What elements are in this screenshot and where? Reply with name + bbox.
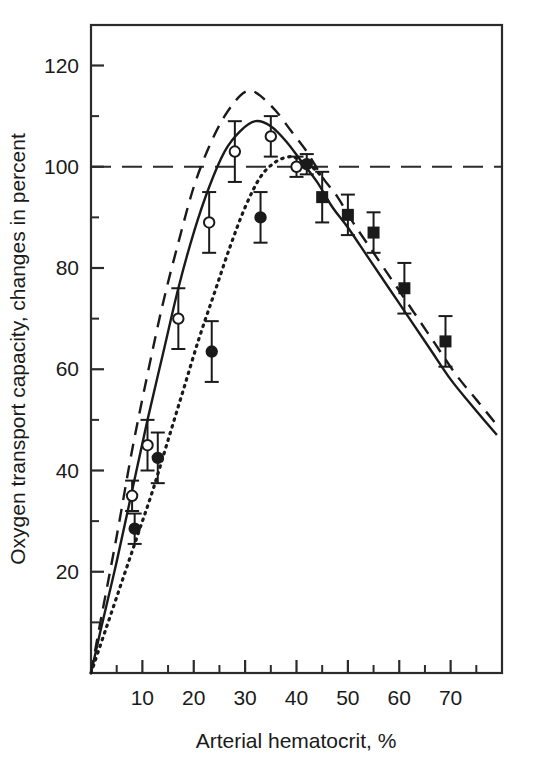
x-tick-label: 50 — [336, 686, 359, 709]
x-tick-label: 60 — [388, 686, 411, 709]
open-circle-marker — [173, 313, 183, 323]
filled-circle-marker — [153, 453, 163, 463]
filled-circle-marker — [302, 159, 312, 169]
filled-circle-marker — [255, 212, 265, 222]
open-circle-marker — [291, 162, 301, 172]
x-tick-label: 40 — [285, 686, 308, 709]
y-tick-label: 80 — [56, 256, 79, 279]
x-tick-label: 70 — [439, 686, 462, 709]
y-tick-label: 40 — [56, 459, 79, 482]
y-tick-label: 20 — [56, 560, 79, 583]
filled-square-marker — [317, 192, 327, 202]
y-axis-title: Oxygen transport capacity, changes in pe… — [6, 133, 29, 565]
open-circle-marker — [204, 217, 214, 227]
x-tick-label: 30 — [233, 686, 256, 709]
filled-circle-marker — [207, 346, 217, 356]
filled-square-marker — [399, 283, 409, 293]
chart-canvas: 20406080100120 10203040506070 Arterial h… — [0, 0, 533, 771]
y-tick-label: 120 — [44, 54, 79, 77]
open-circle-marker — [142, 440, 152, 450]
filled-square-marker — [368, 227, 378, 237]
filled-square-marker — [440, 336, 450, 346]
x-axis-title: Arterial hematocrit, % — [196, 729, 397, 752]
open-circle-marker — [266, 131, 276, 141]
y-tick-label: 60 — [56, 357, 79, 380]
open-circle-marker — [230, 146, 240, 156]
x-tick-label: 10 — [131, 686, 154, 709]
x-tick-label: 20 — [182, 686, 205, 709]
y-tick-label: 100 — [44, 155, 79, 178]
filled-square-marker — [343, 210, 353, 220]
filled-circle-marker — [129, 524, 139, 534]
figure-container: 20406080100120 10203040506070 Arterial h… — [0, 0, 533, 771]
open-circle-marker — [127, 491, 137, 501]
